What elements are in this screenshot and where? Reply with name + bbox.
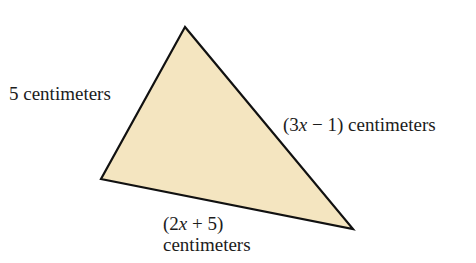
right-side-label: (3x − 1) centimeters xyxy=(283,114,436,136)
bottom-side-label: (2x + 5) centimeters xyxy=(163,213,251,255)
right-side-expr-close: − 1) centimeters xyxy=(307,114,435,135)
bottom-side-variable: x xyxy=(179,213,187,234)
bottom-side-unit: centimeters xyxy=(163,234,251,255)
right-side-variable: x xyxy=(299,114,307,135)
triangle-figure: 5 centimeters (3x − 1) centimeters (2x +… xyxy=(0,0,476,263)
left-side-length: 5 centimeters xyxy=(9,83,111,104)
bottom-side-expr-close: + 5) xyxy=(187,213,223,234)
bottom-side-expr-open: (2 xyxy=(163,213,179,234)
left-side-label: 5 centimeters xyxy=(9,83,111,105)
right-side-expr-open: (3 xyxy=(283,114,299,135)
